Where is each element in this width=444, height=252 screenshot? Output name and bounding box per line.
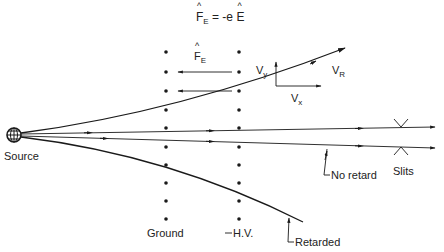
retarded-trajectory [21, 137, 303, 222]
upper-trajectory [21, 48, 345, 133]
straight-trajectory-upper [21, 127, 435, 134]
force-label: FE [194, 50, 206, 62]
no-retard-label: No retard [331, 169, 377, 181]
slits-label: Slits [393, 165, 414, 177]
vx-label: Vx [291, 92, 302, 104]
slits [394, 119, 408, 155]
ground-label: Ground [147, 227, 184, 239]
hv-electrode [237, 50, 241, 221]
source-label: Source [4, 150, 39, 162]
retarded-leader [288, 218, 289, 242]
diagram-canvas [0, 0, 444, 252]
vr-label: VR [332, 64, 345, 76]
hv-label: H.V. [233, 227, 253, 239]
retarded-label: Retarded [295, 236, 340, 248]
source-globe-icon [7, 128, 21, 142]
equation-label: FE = -e E [196, 10, 244, 24]
vy-label: Vy [256, 64, 267, 76]
ground-electrode [164, 50, 168, 221]
